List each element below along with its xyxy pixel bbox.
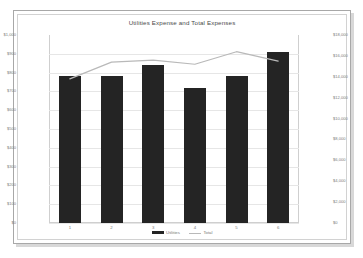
plot-area: $1,000$900$800$700$600$500$400$300$200$1… (49, 35, 299, 223)
y-axis-right-tick-label: $8,000 (333, 137, 363, 141)
line-series-total (49, 35, 299, 223)
y-axis-right-tick-label: $10,000 (333, 117, 363, 121)
legend-item[interactable]: Total (189, 230, 213, 235)
y-axis-left-tick-label: $700 (0, 89, 16, 93)
y-axis-left-tick-label: $200 (0, 183, 16, 187)
chart-title: Utilities Expense and Total Expenses (18, 19, 346, 26)
y-axis-left-tick-label: $500 (0, 127, 16, 131)
y-axis-right-tick-label: $12,000 (333, 96, 363, 100)
y-axis-left-tick-label: $100 (0, 202, 16, 206)
screenshot-root: Utilities Expense and Total Expenses $1,… (0, 0, 363, 258)
legend-line-swatch-icon (189, 231, 201, 235)
legend-label: Total (203, 230, 212, 235)
y-axis-right-tick-label: $16,000 (333, 54, 363, 58)
y-axis-right-tick-label: $0 (333, 221, 363, 225)
chart-frame[interactable]: Utilities Expense and Total Expenses $1,… (13, 10, 351, 244)
legend-bar-swatch-icon (152, 231, 164, 235)
y-axis-left-tick-label: $900 (0, 52, 16, 56)
y-axis-left-tick-label: $1,000 (0, 33, 16, 37)
y-axis-right-tick-label: $14,000 (333, 75, 363, 79)
legend-item[interactable]: Utilities (152, 230, 180, 235)
chart-plot-container: Utilities Expense and Total Expenses $1,… (17, 14, 347, 240)
y-axis-left-tick-label: $800 (0, 71, 16, 75)
y-axis-left-tick-label: $300 (0, 165, 16, 169)
y-axis-right-tick-label: $6,000 (333, 158, 363, 162)
chart-legend[interactable]: UtilitiesTotal (18, 230, 346, 235)
y-axis-right-tick-label: $2,000 (333, 200, 363, 204)
y-axis-left-tick-label: $0 (0, 221, 16, 225)
y-axis-left-tick-label: $600 (0, 108, 16, 112)
legend-label: Utilities (166, 230, 180, 235)
y-axis-right-tick-label: $4,000 (333, 179, 363, 183)
y-axis-right-tick-label: $18,000 (333, 33, 363, 37)
gridline (49, 223, 299, 224)
y-axis-left-tick-label: $400 (0, 146, 16, 150)
